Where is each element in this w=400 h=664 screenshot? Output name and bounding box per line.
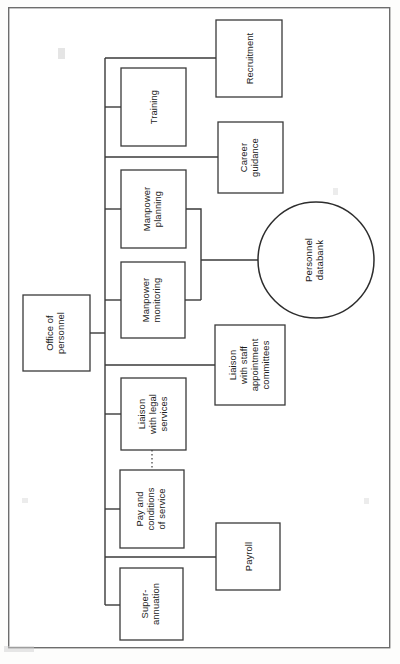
node-training[interactable]: Training [121, 68, 186, 146]
node-liaison-with-staff-appointment-committees[interactable]: Liaison with staff appointment committee… [215, 325, 285, 405]
node-label-pay-conditions-line-2: conditions [145, 487, 156, 530]
node-label-recruitment: Recruitment [244, 32, 255, 84]
node-label-manpower-planning-line-1: Manpower [141, 187, 152, 232]
node-label-payroll: Payroll [243, 542, 254, 571]
node-label-manpower-monitoring-line-1: Manpower [140, 278, 151, 323]
node-label-career-guidance-line-2: guidance [249, 138, 260, 177]
node-label-liaison-staff-line-2: with staff [238, 346, 249, 385]
organisation-chart-diagram: Office of personnel Training Recruitment… [0, 0, 400, 664]
node-label-superannuation-line-1: Super- [139, 590, 150, 619]
node-career-guidance[interactable]: Career guidance [218, 122, 283, 193]
node-label-liaison-legal-line-3: services [158, 396, 169, 431]
node-label-pay-conditions-line-3: of service [156, 488, 167, 529]
node-manpower-planning[interactable]: Manpower planning [121, 170, 186, 248]
node-payroll[interactable]: Payroll [216, 523, 280, 590]
node-label-office-of-personnel-line-1: Office of [44, 315, 55, 351]
node-label-liaison-staff-line-1: Liaison [227, 350, 238, 380]
node-office-of-personnel[interactable]: Office of personnel [23, 295, 90, 371]
node-label-career-guidance-line-1: Career [238, 143, 249, 172]
node-label-liaison-staff-line-3: appointment [249, 338, 260, 391]
node-label-personnel-databank-line-1: Personnel [303, 238, 314, 282]
node-manpower-monitoring[interactable]: Manpower monitoring [121, 262, 185, 338]
node-label-liaison-legal-line-2: with legal [147, 394, 158, 435]
node-liaison-with-legal-services[interactable]: Liaison with legal services [121, 378, 186, 450]
node-label-training: Training [148, 90, 159, 124]
node-label-office-of-personnel-line-2: personnel [55, 312, 66, 354]
node-label-manpower-planning-line-2: planning [152, 191, 163, 227]
node-label-personnel-databank-line-2: databank [314, 240, 325, 280]
node-recruitment[interactable]: Recruitment [216, 20, 282, 97]
node-label-manpower-monitoring-line-2: monitoring [151, 278, 162, 323]
node-label-pay-conditions-line-1: Pay and [134, 491, 145, 526]
node-pay-and-conditions-of-service[interactable]: Pay and conditions of service [120, 470, 184, 548]
node-label-liaison-legal-line-1: Liaison [136, 399, 147, 429]
chart-canvas: Office of personnel Training Recruitment… [0, 0, 400, 664]
node-label-superannuation-line-2: annuation [150, 583, 161, 625]
node-label-liaison-staff-line-4: committees [260, 340, 271, 389]
node-superannuation[interactable]: Super- annuation [120, 568, 183, 640]
node-personnel-databank[interactable]: Personnel databank [258, 202, 374, 318]
